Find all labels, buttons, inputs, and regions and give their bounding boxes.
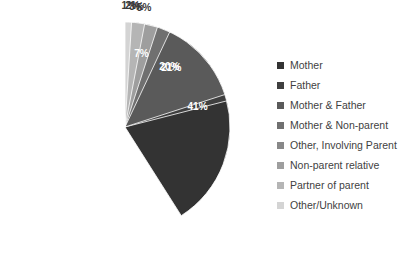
legend-item-label: Other/Unknown xyxy=(290,200,363,211)
legend-item[interactable]: Mother xyxy=(277,55,412,75)
legend-item-label: Non-parent relative xyxy=(290,160,379,171)
pie-chart-svg xyxy=(0,0,262,265)
legend-item-label: Mother xyxy=(290,60,323,71)
legend-color-swatch-icon xyxy=(277,62,284,69)
legend-color-swatch-icon xyxy=(277,182,284,189)
chart-legend: MotherFatherMother & FatherMother & Non-… xyxy=(277,55,412,215)
pie-slice-value-label: 1% xyxy=(121,0,136,11)
legend-item-label: Mother & Non-parent xyxy=(290,120,388,131)
legend-item[interactable]: Mother & Father xyxy=(277,95,412,115)
legend-color-swatch-icon xyxy=(277,82,284,89)
legend-item-label: Partner of parent xyxy=(290,180,369,191)
legend-item[interactable]: Father xyxy=(277,75,412,95)
legend-item[interactable]: Partner of parent xyxy=(277,175,412,195)
legend-item-label: Other, Involving Parent xyxy=(290,140,397,151)
legend-color-swatch-icon xyxy=(277,102,284,109)
pie-slice-value-label: 7% xyxy=(134,48,149,59)
legend-item[interactable]: Mother & Non-parent xyxy=(277,115,412,135)
legend-item-label: Mother & Father xyxy=(290,100,366,111)
legend-item[interactable]: Other, Involving Parent xyxy=(277,135,412,155)
legend-color-swatch-icon xyxy=(277,162,284,169)
legend-color-swatch-icon xyxy=(277,142,284,149)
legend-color-swatch-icon xyxy=(277,122,284,129)
legend-item[interactable]: Other/Unknown xyxy=(277,195,412,215)
pie-chart-figure: 41%21%20%7%2%5%3%1% MotherFatherMother &… xyxy=(0,0,416,265)
pie-slice-value-label: 41% xyxy=(187,100,207,111)
legend-color-swatch-icon xyxy=(277,202,284,209)
legend-item[interactable]: Non-parent relative xyxy=(277,155,412,175)
pie-chart-plot-area: 41%21%20%7%2%5%3%1% xyxy=(0,0,262,265)
legend-item-label: Father xyxy=(290,80,320,91)
pie-slice-value-label: 20% xyxy=(159,60,179,71)
